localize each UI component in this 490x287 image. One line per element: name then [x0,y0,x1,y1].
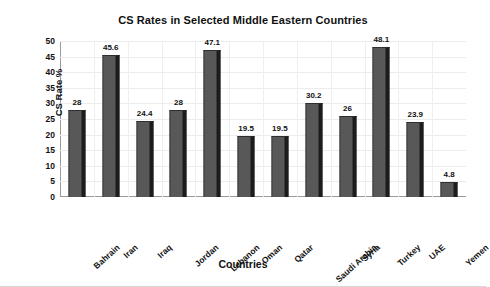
y-axis-tick-label: 25 [29,115,55,124]
y-axis-tick-label: 45 [29,53,55,62]
bar[interactable] [170,110,187,197]
bar-slot: 47.1 [195,41,229,197]
x-axis-label: Countries [0,258,486,270]
bar-value-label: 28 [72,99,81,107]
y-axis-tick-label: 50 [29,37,55,46]
bar-value-label: 19.5 [272,125,288,133]
bar[interactable] [102,55,119,197]
bar[interactable] [339,116,356,197]
bar-slot: 30.2 [297,41,331,197]
bar-slot: 23.9 [398,41,432,197]
bar-slot: 19.5 [263,41,297,197]
y-axis-tick-label: 0 [29,193,55,202]
bar-value-label: 47.1 [204,39,220,47]
bar-value-label: 24.4 [137,110,153,118]
bar-slot: 48.1 [365,41,399,197]
y-axis-tick-label: 5 [29,177,55,186]
bar-slot: 4.8 [432,41,466,197]
bar[interactable] [373,47,390,197]
bar[interactable] [305,103,322,197]
bar-slot: 28 [60,41,94,197]
bar-value-label: 23.9 [407,111,423,119]
y-axis-tick-label: 35 [29,84,55,93]
bar-value-label: 4.8 [444,171,455,179]
bar-slot: 19.5 [229,41,263,197]
plot-area: CS Rate % 05101520253035404550 2845.624.… [60,41,466,197]
bar-value-label: 48.1 [374,36,390,44]
bar[interactable] [441,182,458,197]
y-axis-tick-label: 15 [29,146,55,155]
chart-title: CS Rates in Selected Middle Eastern Coun… [0,14,486,26]
y-axis-tick-label: 30 [29,99,55,108]
bar-value-label: 30.2 [306,92,322,100]
y-axis-tick-label: 10 [29,162,55,171]
bar-slot: 24.4 [128,41,162,197]
bar[interactable] [238,136,255,197]
bar[interactable] [204,50,221,197]
y-axis-tick-label: 40 [29,68,55,77]
bar-value-label: 45.6 [103,44,119,52]
bar-slot: 45.6 [94,41,128,197]
bar-value-label: 28 [174,99,183,107]
bar[interactable] [271,136,288,197]
bar[interactable] [68,110,85,197]
bar[interactable] [136,121,153,197]
bar-slot: 28 [162,41,196,197]
bar-slot: 26 [331,41,365,197]
bar-value-label: 19.5 [238,125,254,133]
bar-value-label: 26 [343,105,352,113]
y-axis-tick-label: 20 [29,131,55,140]
bar[interactable] [407,122,424,197]
